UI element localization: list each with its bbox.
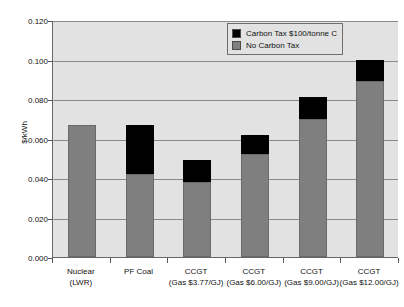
bar-segment-carbon-tax [183, 160, 211, 182]
y-tick-label: 0.020 [4, 214, 48, 223]
bar-segment-no-carbon-tax [356, 81, 384, 257]
x-tick-mark [340, 258, 341, 263]
x-tick-mark [225, 258, 226, 263]
legend-swatch-no-carbon-tax [232, 41, 241, 50]
y-axis-title: $/kWh [20, 103, 29, 163]
y-tick-label: 0.000 [4, 254, 48, 263]
x-tick-mark [167, 258, 168, 263]
x-tick-mark [398, 258, 399, 263]
bar-segment-no-carbon-tax [68, 125, 96, 257]
bar-segment-no-carbon-tax [183, 182, 211, 257]
chart-legend: Carbon Tax $100/tonne C No Carbon Tax [227, 23, 343, 55]
x-axis-label-line1: Nuclear [67, 267, 95, 276]
gridline [53, 100, 398, 101]
gridline [53, 21, 398, 22]
y-tick-label: 0.060 [4, 135, 48, 144]
x-axis-label-line1: PF Coal [124, 267, 153, 276]
y-tick-label: 0.040 [4, 175, 48, 184]
gridline [53, 140, 398, 141]
bar-segment-carbon-tax [241, 135, 269, 155]
bar-segment-no-carbon-tax [126, 174, 154, 257]
x-axis-label-line2: (LWR) [44, 277, 118, 288]
legend-item-no-carbon-tax: No Carbon Tax [232, 39, 337, 51]
gridline [53, 219, 398, 220]
x-axis-label-line1: CCGT [300, 267, 323, 276]
bar-segment-no-carbon-tax [241, 154, 269, 257]
x-axis-label-line1: CCGT [185, 267, 208, 276]
x-tick-mark [52, 258, 53, 263]
legend-label-carbon-tax: Carbon Tax $100/tonne C [246, 29, 337, 38]
x-axis-label-line2: (Gas $12.00/GJ) [332, 277, 404, 288]
bar-chart: $/kWh 0.1200.1000.0800.0600.0400.0200.00… [0, 0, 404, 307]
plot-area [52, 21, 398, 258]
legend-label-no-carbon-tax: No Carbon Tax [246, 41, 299, 50]
x-tick-mark [110, 258, 111, 263]
bar-segment-carbon-tax [356, 60, 384, 82]
legend-swatch-carbon-tax [232, 29, 241, 38]
x-axis-label-line1: CCGT [242, 267, 265, 276]
bar-segment-carbon-tax [299, 97, 327, 119]
bar-segment-no-carbon-tax [299, 119, 327, 257]
x-tick-mark [283, 258, 284, 263]
x-axis-label-line1: CCGT [358, 267, 381, 276]
x-axis-label: CCGT(Gas $12.00/GJ) [332, 266, 404, 288]
gridline [53, 61, 398, 62]
gridline [53, 179, 398, 180]
bar-segment-carbon-tax [126, 125, 154, 174]
y-tick-label: 0.120 [4, 17, 48, 26]
y-tick-label: 0.100 [4, 56, 48, 65]
legend-item-carbon-tax: Carbon Tax $100/tonne C [232, 27, 337, 39]
y-tick-label: 0.080 [4, 96, 48, 105]
